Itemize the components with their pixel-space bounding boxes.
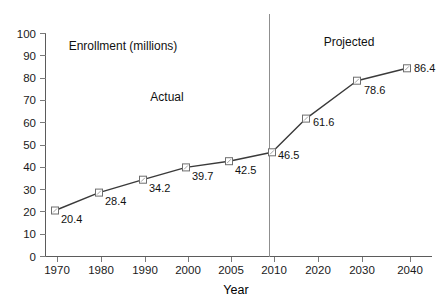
- y-tick-label-30: 30: [23, 184, 36, 196]
- data-point-2000: [183, 164, 190, 171]
- point-value-label-1970: 20.4: [61, 213, 82, 225]
- data-point-1970: [52, 207, 59, 214]
- y-tick-label-20: 20: [23, 206, 36, 218]
- x-tick-label-2010: 2010: [261, 264, 287, 276]
- x-tick-label-2040: 2040: [397, 264, 423, 276]
- x-tick-label-2020: 2020: [305, 264, 331, 276]
- data-point-1980: [96, 189, 103, 196]
- data-point-2020: [303, 115, 310, 122]
- y-tick-label-100: 100: [17, 28, 36, 40]
- point-value-label-2010: 46.5: [278, 149, 299, 161]
- data-point-markers: [52, 65, 411, 214]
- x-axis-ticks: 1970 1980 1990 2000 2005 2010 2020 2030 …: [44, 257, 423, 277]
- enrollment-line-chart: 0 10 20 30 40 50 60 70 80 90 100 1970 19…: [0, 0, 443, 302]
- y-tick-label-80: 80: [23, 72, 36, 84]
- y-tick-label-50: 50: [23, 139, 36, 151]
- data-point-2030: [354, 77, 361, 84]
- x-tick-label-1970: 1970: [44, 264, 70, 276]
- y-tick-label-10: 10: [23, 228, 36, 240]
- x-tick-label-1990: 1990: [132, 264, 158, 276]
- data-point-value-labels: 20.4 28.4 34.2 39.7 42.5 46.5 61.6 78.6 …: [61, 62, 435, 225]
- axes-group: [46, 33, 433, 257]
- x-tick-label-2000: 2000: [175, 264, 201, 276]
- y-tick-label-40: 40: [23, 161, 36, 173]
- point-value-label-2030: 78.6: [364, 84, 385, 96]
- point-value-label-1990: 34.2: [149, 182, 170, 194]
- y-axis-title: Enrollment (millions): [69, 39, 178, 53]
- y-tick-label-90: 90: [23, 50, 36, 62]
- point-value-label-1980: 28.4: [105, 195, 126, 207]
- point-value-label-2005: 42.5: [235, 164, 256, 176]
- data-point-2040: [404, 65, 411, 72]
- x-tick-label-1980: 1980: [88, 264, 114, 276]
- point-value-label-2020: 61.6: [313, 116, 334, 128]
- data-point-2005: [226, 158, 233, 165]
- y-tick-label-70: 70: [23, 94, 36, 106]
- x-axis-title: Year: [223, 283, 248, 297]
- y-tick-label-0: 0: [30, 251, 36, 263]
- data-point-1990: [140, 176, 147, 183]
- data-point-2010: [269, 149, 276, 156]
- x-tick-label-2005: 2005: [218, 264, 244, 276]
- y-axis-ticks: 0 10 20 30 40 50 60 70 80 90 100: [17, 28, 46, 263]
- point-value-label-2000: 39.7: [192, 170, 213, 182]
- y-tick-label-60: 60: [23, 117, 36, 129]
- chart-canvas: 0 10 20 30 40 50 60 70 80 90 100 1970 19…: [0, 0, 443, 302]
- enrollment-series-line: [55, 68, 407, 210]
- projected-region-label: Projected: [324, 35, 375, 49]
- x-tick-label-2030: 2030: [349, 264, 375, 276]
- point-value-label-2040: 86.4: [414, 62, 435, 74]
- actual-region-label: Actual: [150, 90, 183, 104]
